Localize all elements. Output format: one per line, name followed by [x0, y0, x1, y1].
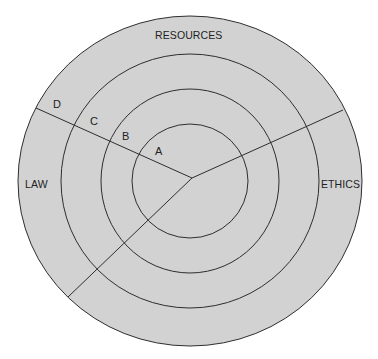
ring-label-a: A [155, 146, 162, 157]
sector-label-law: LAW [25, 179, 48, 190]
ring-label-b: B [122, 131, 129, 142]
sector-label-resources: RESOURCES [155, 30, 222, 41]
ring-label-c: C [90, 116, 98, 127]
ring-d-outer-circle [18, 16, 362, 346]
sector-label-ethics: ETHICS [321, 179, 360, 190]
ring-label-d: D [53, 99, 61, 110]
